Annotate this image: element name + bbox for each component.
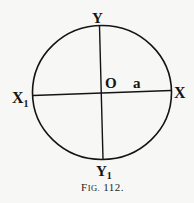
label-x1-subscript: 1	[24, 98, 29, 109]
label-y1-subscript: 1	[107, 170, 112, 181]
label-origin-o: O	[105, 75, 117, 91]
caption-number: 112.	[103, 181, 124, 193]
label-x-right: X	[174, 84, 186, 101]
label-radius-a: a	[133, 75, 141, 91]
figure-caption: FIG.112.	[81, 181, 124, 193]
label-x1-left: X1	[12, 89, 29, 109]
figure-112: Y X1 X O a Y1 FIG.112.	[0, 0, 194, 203]
label-y-top: Y	[92, 10, 103, 26]
label-x1-main: X	[12, 89, 24, 106]
label-y1-bottom: Y1	[96, 163, 112, 181]
caption-smallcaps: IG.	[88, 183, 101, 193]
label-y1-main: Y	[96, 163, 107, 179]
caption-prefix: F	[81, 181, 88, 193]
